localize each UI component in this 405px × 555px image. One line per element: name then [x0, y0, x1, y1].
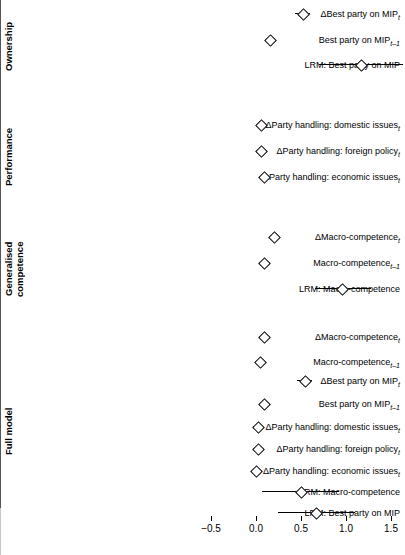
- row-label: ΔParty handling: domestic issuest: [155, 118, 405, 136]
- coefficient-row: LRM: Macro-competence: [0, 485, 405, 499]
- x-tick-label: −0.5: [191, 523, 231, 534]
- coefficient-row: ΔParty handling: domestic issuest: [0, 420, 405, 434]
- row-label: Macro-competencet–1: [155, 256, 405, 274]
- row-label: Best party on MIPt–1: [155, 397, 405, 415]
- coefficient-row: ΔBest party on MIPt: [0, 374, 405, 388]
- coefficient-row: ΔParty handling: foreign policyt: [0, 144, 405, 158]
- coefficient-plot: −0.50.00.51.01.5 OwnershipPerformanceGen…: [0, 0, 405, 555]
- x-tick-label: 1.0: [326, 523, 366, 534]
- coefficient-row: ΔMacro-competencet: [0, 230, 405, 244]
- coefficient-row: LRM: Macro-competence: [0, 282, 405, 296]
- coefficient-row: LRM: Best party on MIP: [0, 58, 405, 72]
- row-label: ΔParty handling: economic issuest: [155, 170, 405, 188]
- x-tick-label: 0.5: [281, 523, 321, 534]
- row-label: Best party on MIPt–1: [155, 33, 405, 51]
- coefficient-row: ΔMacro-competencet: [0, 330, 405, 344]
- row-label: ΔParty handling: foreign policyt: [155, 144, 405, 162]
- row-label: LRM: Macro-competence: [155, 282, 405, 296]
- x-tick-label: 0.0: [236, 523, 276, 534]
- coefficient-row: Best party on MIPt–1: [0, 397, 405, 411]
- row-label: LRM: Macro-competence: [155, 485, 405, 499]
- row-label: ΔBest party on MIPt: [155, 7, 405, 25]
- coefficient-row: ΔParty handling: economic issuest: [0, 170, 405, 184]
- coefficient-row: Macro-competencet–1: [0, 256, 405, 270]
- row-label: ΔMacro-competencet: [155, 330, 405, 348]
- coefficient-row: ΔParty handling: foreign policyt: [0, 442, 405, 456]
- coefficient-row: ΔBest party on MIPt: [0, 7, 405, 21]
- x-tick-label: 1.5: [371, 523, 405, 534]
- row-label: ΔParty handling: foreign policyt: [155, 442, 405, 460]
- coefficient-row: ΔParty handling: domestic issuest: [0, 118, 405, 132]
- coefficient-row: Best party on MIPt–1: [0, 33, 405, 47]
- coefficient-row: LRM: Best party on MIP: [0, 506, 405, 520]
- row-label: ΔBest party on MIPt: [155, 374, 405, 392]
- coefficient-row: Macro-competencet–1: [0, 355, 405, 369]
- row-label: ΔParty handling: economic issuest: [155, 464, 405, 482]
- coefficient-row: ΔParty handling: economic issuest: [0, 464, 405, 478]
- row-label: ΔParty handling: domestic issuest: [155, 420, 405, 438]
- row-label: LRM: Best party on MIP: [155, 506, 405, 520]
- row-label: Macro-competencet–1: [155, 355, 405, 373]
- row-label: ΔMacro-competencet: [155, 230, 405, 248]
